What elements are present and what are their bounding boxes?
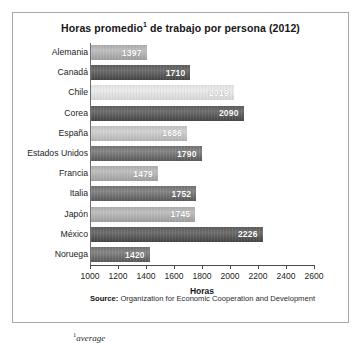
category-label-noruega: Noruega xyxy=(0,247,88,262)
bar-row: Japón1745 xyxy=(90,207,314,222)
bar-row: Estados Unidos1790 xyxy=(90,146,314,161)
x-tick-2000 xyxy=(230,265,231,269)
x-tick-label-2000: 2000 xyxy=(221,271,240,281)
bar-row: Corea2090 xyxy=(90,106,314,121)
bar-value-label: 1752 xyxy=(172,189,197,199)
bar-value-label: 1479 xyxy=(133,169,158,179)
bar-row: Noruega1420 xyxy=(90,247,314,262)
bar-estados-unidos[interactable]: 1790 xyxy=(91,146,202,161)
bar-italia[interactable]: 1752 xyxy=(91,186,196,201)
x-tick-label-1600: 1600 xyxy=(165,271,184,281)
x-tick-1800 xyxy=(202,265,203,269)
bar-japón[interactable]: 1745 xyxy=(91,207,195,222)
x-tick-label-1800: 1800 xyxy=(193,271,212,281)
source-note: Source: Organization for Economic Cooper… xyxy=(90,294,315,303)
bar-row: México2226 xyxy=(90,227,314,242)
x-tick-label-2200: 2200 xyxy=(249,271,268,281)
x-tick-1400 xyxy=(146,265,147,269)
chart-title: Horas promedio1 de trabajo por persona (… xyxy=(13,21,348,34)
bar-value-label: 1790 xyxy=(177,149,202,159)
chart-title-rest: de trabajo por persona (2012) xyxy=(147,22,300,34)
bar-value-label: 2019 xyxy=(209,88,234,98)
x-tick-1000 xyxy=(90,265,91,269)
x-tick-1200 xyxy=(118,265,119,269)
bar-value-label: 1397 xyxy=(122,48,147,58)
category-label-méxico: México xyxy=(0,227,88,242)
x-tick-2200 xyxy=(258,265,259,269)
category-label-alemania: Alemania xyxy=(0,45,88,60)
category-label-italia: Italia xyxy=(0,186,88,201)
category-label-chile: Chile xyxy=(0,85,88,100)
bar-francia[interactable]: 1479 xyxy=(91,166,158,181)
footnote: 1average xyxy=(73,331,105,343)
source-text: Organization for Economic Cooperation an… xyxy=(120,294,315,303)
source-label: Source: xyxy=(90,294,118,303)
category-label-corea: Corea xyxy=(0,106,88,121)
bar-value-label: 2090 xyxy=(219,108,244,118)
plot-area: 100012001400160018002000220024002600 Ale… xyxy=(90,43,314,269)
category-label-estados-unidos: Estados Unidos xyxy=(0,146,88,161)
x-tick-1600 xyxy=(174,265,175,269)
x-tick-label-1000: 1000 xyxy=(81,271,100,281)
bar-canadá[interactable]: 1710 xyxy=(91,65,190,80)
footnote-text: average xyxy=(76,333,105,343)
x-tick-label-2600: 2600 xyxy=(305,271,324,281)
bar-noruega[interactable]: 1420 xyxy=(91,247,150,262)
x-tick-label-2400: 2400 xyxy=(277,271,296,281)
chart-title-main: Horas promedio xyxy=(61,22,143,34)
category-label-canadá: Canadá xyxy=(0,65,88,80)
x-tick-label-1200: 1200 xyxy=(109,271,128,281)
bar-value-label: 1745 xyxy=(171,209,196,219)
chart-frame: Horas promedio1 de trabajo por persona (… xyxy=(12,12,349,323)
bar-row: Francia1479 xyxy=(90,166,314,181)
bar-corea[interactable]: 2090 xyxy=(91,106,244,121)
bar-chile[interactable]: 2019 xyxy=(91,85,234,100)
category-label-francia: Francia xyxy=(0,166,88,181)
bar-row: Canadá1710 xyxy=(90,65,314,80)
bar-value-label: 1710 xyxy=(166,68,191,78)
bar-row: Italia1752 xyxy=(90,186,314,201)
bar-row: Chile2019 xyxy=(90,85,314,100)
bar-row: Alemania1397 xyxy=(90,45,314,60)
bar-value-label: 1686 xyxy=(162,128,187,138)
x-tick-2600 xyxy=(314,265,315,269)
bar-value-label: 2226 xyxy=(238,229,263,239)
x-tick-2400 xyxy=(286,265,287,269)
category-label-españa: España xyxy=(0,126,88,141)
bar-alemania[interactable]: 1397 xyxy=(91,45,147,60)
category-label-japón: Japón xyxy=(0,207,88,222)
bar-méxico[interactable]: 2226 xyxy=(91,227,263,242)
bar-value-label: 1420 xyxy=(125,250,150,260)
bar-españa[interactable]: 1686 xyxy=(91,126,187,141)
x-tick-label-1400: 1400 xyxy=(137,271,156,281)
bar-row: España1686 xyxy=(90,126,314,141)
